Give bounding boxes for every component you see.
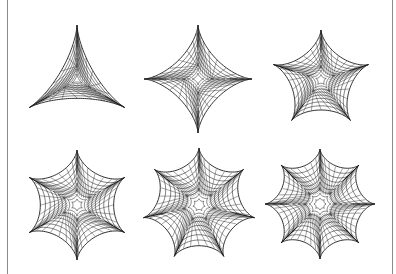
six-cusp-star-shape [29, 150, 124, 260]
seven-cusp-star-shape [143, 148, 254, 256]
astroid-shape [144, 25, 252, 133]
hypocycloid-figure [0, 0, 396, 274]
five-cusp-star-shape [273, 30, 368, 120]
deltoid-shape [29, 25, 124, 108]
eight-cusp-star-shape [265, 149, 375, 259]
